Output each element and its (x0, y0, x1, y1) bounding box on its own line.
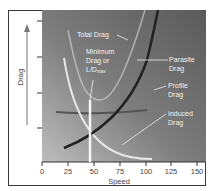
svg-text:Induced: Induced (168, 110, 193, 117)
svg-text:Drag: Drag (168, 91, 183, 99)
svg-text:Parasite: Parasite (169, 56, 195, 63)
x-tick-150: 150 (191, 167, 204, 176)
svg-text:L/D: L/D (86, 66, 97, 73)
x-tick-125: 125 (165, 167, 178, 176)
svg-text:Drag: Drag (168, 119, 183, 127)
x-axis-ticks (42, 162, 197, 166)
x-tick-50: 50 (90, 167, 98, 176)
svg-text:max: max (97, 69, 106, 74)
x-axis-label: Speed (108, 177, 130, 186)
x-tick-100: 100 (140, 167, 153, 176)
y-axis-label: Drag (16, 69, 25, 85)
y-axis-ticks (37, 21, 42, 128)
x-tick-25: 25 (64, 167, 72, 176)
x-tick-labels: 0 25 50 75 100 125 150 (40, 167, 203, 176)
x-tick-75: 75 (116, 167, 124, 176)
svg-text:Minimum: Minimum (86, 48, 115, 55)
drag-chart: Drag 0 25 50 75 100 125 150 Speed Total … (0, 0, 215, 191)
svg-text:Profile: Profile (168, 82, 188, 89)
x-tick-0: 0 (40, 167, 44, 176)
total-drag-label: Total Drag (77, 31, 109, 39)
svg-text:Drag: Drag (169, 65, 184, 73)
svg-text:Drag or: Drag or (86, 57, 110, 65)
